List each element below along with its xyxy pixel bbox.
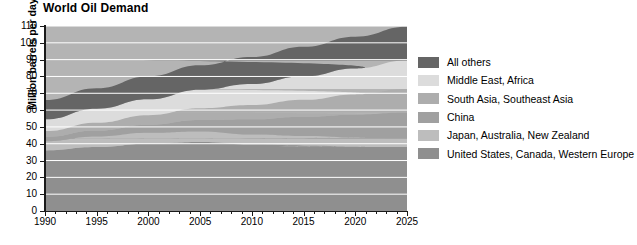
x-tick-label: 1995 (86, 216, 108, 227)
x-tick-mark-minor (324, 211, 325, 214)
y-tick-label: 80 (26, 71, 37, 81)
x-tick-mark-minor (55, 211, 56, 214)
x-tick-mark-minor (169, 211, 170, 214)
legend-item[interactable]: Middle East, Africa (418, 71, 634, 89)
x-tick-mark-minor (107, 211, 108, 214)
x-tick-mark-minor (273, 211, 274, 214)
x-axis-line (44, 211, 408, 213)
chart-title: World Oil Demand (43, 1, 148, 15)
x-tick-mark-minor (117, 211, 118, 214)
y-tick-label: 60 (26, 105, 37, 115)
x-tick-mark-minor (366, 211, 367, 214)
x-tick-label: 2025 (396, 216, 418, 227)
legend-label: All others (447, 56, 491, 68)
chart-container: World Oil Demand Million barrels per day… (0, 0, 637, 245)
y-tick-label: 40 (26, 139, 37, 149)
x-tick-label: 1990 (34, 216, 56, 227)
legend-label: South Asia, Southeast Asia (447, 93, 573, 105)
y-tick-label: 0 (31, 206, 37, 216)
x-tick-label: 2010 (241, 216, 263, 227)
y-tick-label: 20 (26, 172, 37, 182)
y-tick-label: 110 (21, 21, 37, 31)
legend-item[interactable]: All others (418, 53, 634, 71)
legend-swatch (418, 57, 439, 68)
x-tick-label: 2005 (189, 216, 211, 227)
x-tick-label: 2015 (292, 216, 314, 227)
y-tick-label: 30 (26, 156, 37, 166)
legend-item[interactable]: China (418, 108, 634, 126)
x-tick-mark-minor (314, 211, 315, 214)
legend-item[interactable]: United States, Canada, Western Europe (418, 144, 634, 162)
x-tick-mark-minor (242, 211, 243, 214)
x-tick-mark-minor (86, 211, 87, 214)
x-tick-mark-minor (293, 211, 294, 214)
area-series (45, 142, 407, 211)
x-tick-label: 2000 (137, 216, 159, 227)
y-tick-label: 50 (26, 122, 37, 132)
legend-swatch (418, 93, 439, 104)
x-tick-mark-minor (138, 211, 139, 214)
legend-swatch (418, 130, 439, 141)
x-tick-mark-minor (262, 211, 263, 214)
x-tick-mark-minor (190, 211, 191, 214)
x-tick-mark-minor (386, 211, 387, 214)
legend-label: China (447, 111, 474, 123)
y-axis-line (44, 25, 46, 212)
legend-swatch (418, 75, 439, 86)
x-tick-mark-minor (179, 211, 180, 214)
chart-legend: All othersMiddle East, AfricaSouth Asia,… (418, 53, 634, 163)
x-tick-mark-minor (159, 211, 160, 214)
x-tick-mark-minor (231, 211, 232, 214)
x-tick-mark-minor (221, 211, 222, 214)
x-tick-label: 2020 (344, 216, 366, 227)
legend-swatch (418, 112, 439, 123)
x-tick-mark-minor (128, 211, 129, 214)
plot-area (45, 26, 407, 211)
y-tick-label: 100 (20, 38, 37, 48)
legend-item[interactable]: South Asia, Southeast Asia (418, 90, 634, 108)
legend-label: Japan, Australia, New Zealand (447, 129, 589, 141)
x-tick-mark-minor (210, 211, 211, 214)
stacked-area-svg (45, 26, 407, 211)
x-tick-mark-minor (76, 211, 77, 214)
legend-item[interactable]: Japan, Australia, New Zealand (418, 126, 634, 144)
y-axis-ticks: 0102030405060708090100110 (0, 0, 41, 245)
x-tick-mark-minor (66, 211, 67, 214)
x-tick-mark-minor (397, 211, 398, 214)
y-tick-label: 90 (26, 55, 37, 65)
y-tick-label: 70 (26, 88, 37, 98)
x-tick-mark-minor (376, 211, 377, 214)
x-tick-mark-minor (283, 211, 284, 214)
y-tick-label: 10 (26, 189, 37, 199)
legend-label: Middle East, Africa (447, 74, 534, 86)
legend-swatch (418, 148, 439, 159)
x-tick-mark-minor (335, 211, 336, 214)
x-tick-mark-minor (345, 211, 346, 214)
legend-label: United States, Canada, Western Europe (447, 148, 634, 160)
